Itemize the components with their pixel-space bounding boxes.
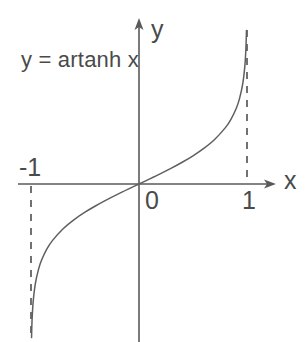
- y-axis-label: y: [151, 17, 164, 42]
- tick-label-negative-one: -1: [19, 155, 41, 180]
- equation-label: y = artanh x: [21, 49, 139, 71]
- tick-label-one: 1: [242, 188, 256, 213]
- artanh-figure: y = artanh x y x 0 1 -1: [0, 0, 308, 342]
- x-axis-label: x: [284, 168, 297, 193]
- tick-label-origin: 0: [145, 188, 159, 213]
